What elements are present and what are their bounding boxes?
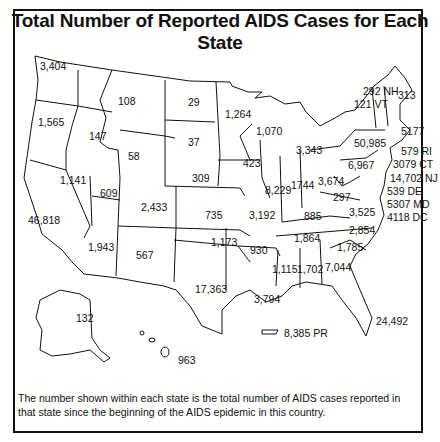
- state-label-wa: 3,404: [40, 61, 66, 72]
- state-label-mt: 108: [118, 96, 136, 107]
- state-label-nm: 567: [136, 250, 154, 261]
- state-label-md: 5307 MD: [387, 199, 430, 210]
- state-label-mi: 3,343: [296, 145, 322, 156]
- state-label-ut: 609: [100, 188, 118, 199]
- state-label-ct: 3079 CT: [393, 159, 433, 170]
- state-label-pa: 6,967: [348, 160, 374, 171]
- state-label-sd: 37: [188, 137, 200, 148]
- state-label-az: 1,943: [88, 242, 114, 253]
- state-label-fl: 24,492: [376, 316, 408, 327]
- state-label-al: 1,702: [297, 264, 323, 275]
- state-label-co: 2,433: [141, 202, 167, 213]
- state-label-tx: 17,363: [195, 284, 227, 295]
- state-label-or: 1,565: [38, 117, 64, 128]
- state-label-il: 8,229: [265, 185, 291, 196]
- state-label-mo: 3,192: [249, 210, 275, 221]
- state-label-hi: 963: [178, 355, 196, 366]
- state-label-ar: 930: [250, 245, 268, 256]
- state-label-ny: 50,985: [354, 138, 386, 149]
- state-label-de: 539 DE: [387, 186, 422, 197]
- state-label-ak: 132: [76, 313, 94, 324]
- state-label-tn: 1,864: [294, 233, 320, 244]
- state-label-nh: 292 NH: [363, 86, 399, 97]
- state-label-ca: 46,818: [28, 215, 60, 226]
- state-label-vt: 121 VT: [354, 99, 388, 110]
- state-label-ne: 309: [192, 173, 210, 184]
- state-label-nj: 14,702 NJ: [390, 173, 438, 184]
- state-label-pr: 8,385 PR: [284, 328, 328, 339]
- state-label-me: 313: [398, 90, 416, 101]
- state-label-wv: 297: [333, 192, 351, 203]
- state-label-nv: 1,141: [60, 175, 86, 186]
- state-label-mn: 1,264: [225, 109, 251, 120]
- state-label-dc: 4118 DC: [387, 212, 428, 223]
- state-label-id: 147: [89, 131, 107, 142]
- map-footnote: The number shown within each state is th…: [18, 391, 413, 419]
- state-label-la: 3,794: [254, 294, 280, 305]
- state-label-ma: 5177: [401, 126, 424, 137]
- state-label-ms: 1,115: [272, 264, 298, 275]
- state-label-ok: 1,173: [211, 237, 237, 248]
- state-label-ri: 579 RI: [401, 146, 432, 157]
- state-label-oh: 3,674: [318, 176, 344, 187]
- state-label-sc: 1,785: [337, 242, 363, 253]
- state-label-ga: 7,044: [325, 262, 351, 273]
- state-label-ia: 423: [243, 158, 261, 169]
- state-label-wy: 58: [128, 151, 140, 162]
- state-label-wi: 1,070: [256, 126, 282, 137]
- state-label-nc: 2,854: [349, 225, 375, 236]
- state-label-nd: 29: [188, 97, 200, 108]
- state-label-ks: 735: [205, 210, 223, 221]
- state-label-in: 1744: [291, 180, 314, 191]
- state-label-ky: 885: [304, 211, 322, 222]
- state-label-va: 3,525: [349, 207, 375, 218]
